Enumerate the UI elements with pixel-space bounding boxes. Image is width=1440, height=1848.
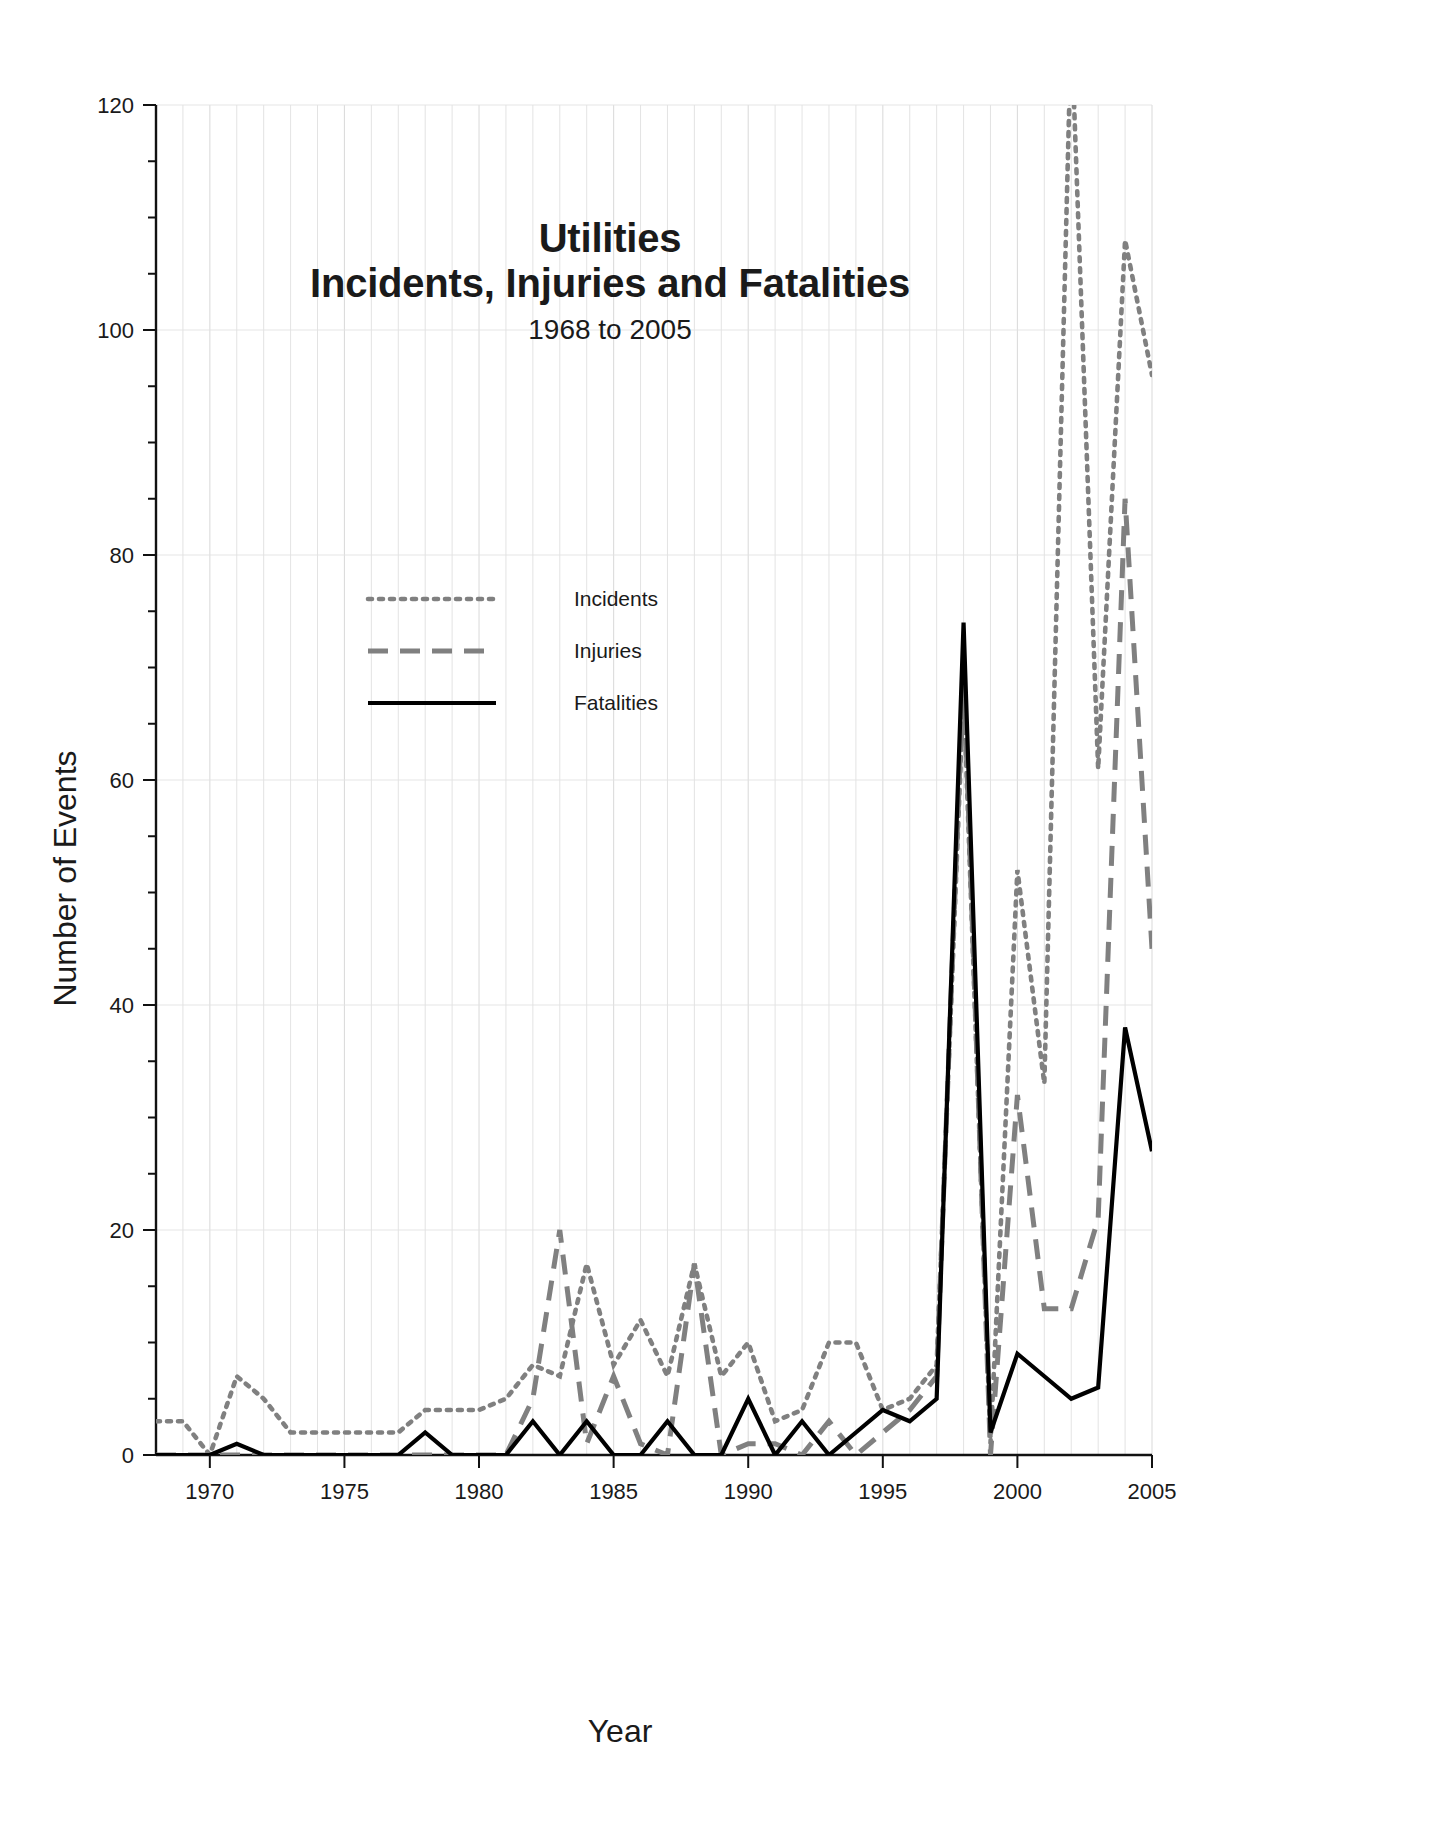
svg-text:120: 120 — [97, 93, 134, 118]
chart-figure: 0204060801001201970197519801985199019952… — [0, 0, 1440, 1848]
y-axis-title: Number of Events — [47, 659, 84, 1099]
data-series — [156, 26, 1152, 1455]
svg-text:40: 40 — [110, 993, 134, 1018]
x-axis-title: Year — [480, 1713, 760, 1750]
svg-text:1990: 1990 — [724, 1479, 773, 1504]
svg-text:1975: 1975 — [320, 1479, 369, 1504]
line-chart-svg: 0204060801001201970197519801985199019952… — [0, 0, 1440, 1848]
grid-lines — [156, 105, 1152, 1455]
tick-labels: 0204060801001201970197519801985199019952… — [97, 93, 1176, 1504]
svg-text:60: 60 — [110, 768, 134, 793]
svg-text:20: 20 — [110, 1218, 134, 1243]
svg-text:2005: 2005 — [1128, 1479, 1177, 1504]
svg-text:2000: 2000 — [993, 1479, 1042, 1504]
svg-text:1985: 1985 — [589, 1479, 638, 1504]
chart-legend: IncidentsInjuriesFatalities — [368, 587, 658, 714]
svg-text:0: 0 — [122, 1443, 134, 1468]
chart-canvas: 0204060801001201970197519801985199019952… — [0, 0, 1440, 1848]
svg-text:1970: 1970 — [185, 1479, 234, 1504]
legend-label-fatalities: Fatalities — [574, 691, 658, 714]
svg-text:1995: 1995 — [858, 1479, 907, 1504]
svg-text:1980: 1980 — [455, 1479, 504, 1504]
legend-label-injuries: Injuries — [574, 639, 642, 662]
svg-text:80: 80 — [110, 543, 134, 568]
legend-label-incidents: Incidents — [574, 587, 658, 610]
svg-text:100: 100 — [97, 318, 134, 343]
